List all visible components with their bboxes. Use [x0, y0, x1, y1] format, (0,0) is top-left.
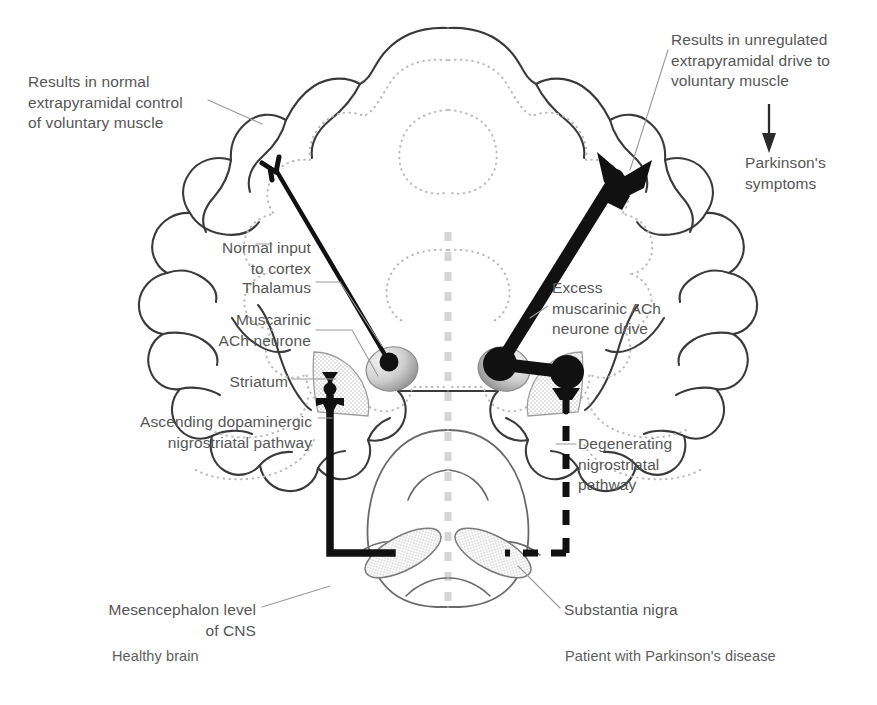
right-sulcus-11 — [506, 418, 528, 440]
left-interneuron-soma — [324, 383, 337, 396]
label-mesencephalon-level: Mesencephalon level of CNS — [100, 600, 256, 641]
label-thalamus: Thalamus — [217, 278, 311, 299]
left-cortical-terminal — [262, 157, 279, 180]
right-ach-soma-thalamic — [483, 347, 517, 381]
right-sulcus-6 — [679, 333, 733, 365]
left-sulcus-3 — [203, 160, 231, 232]
left-sulcus-1 — [312, 84, 360, 158]
label-normal-input-to-cortex: Normal input to cortex — [185, 238, 311, 279]
left-inner-boundary — [244, 60, 447, 412]
label-excess-muscarinic-drive: Excess muscarinic ACh neurone drive — [552, 278, 661, 340]
left-inner-boundary-3 — [386, 250, 447, 322]
label-results-normal-control: Results in normal extrapyramidal control… — [28, 72, 183, 134]
left-inner-boundary-2 — [399, 110, 447, 194]
right-inner-boundary-2 — [449, 110, 497, 194]
caption-parkinsons-patient: Patient with Parkinson's disease — [565, 648, 776, 664]
right-brainstem-inner — [449, 470, 488, 500]
label-degenerating-pathway: Degenerating nigrostriatal pathway — [578, 434, 672, 496]
parkinsons-brain-diagram: Results in normal extrapyramidal control… — [0, 0, 877, 705]
label-muscarinic-ach-neurone: Muscarinic ACh neurone — [190, 310, 311, 351]
left-striatum — [313, 352, 369, 416]
right-brainstem-outline — [449, 430, 528, 607]
left-brainstem-inner — [408, 470, 447, 500]
right-sulcus-3 — [665, 160, 693, 232]
label-striatum: Striatum — [222, 372, 288, 393]
right-sulcus-7 — [676, 388, 716, 395]
left-brainstem-fold-2 — [406, 578, 447, 596]
leader-substantia-nigra — [518, 566, 560, 608]
right-sulcus-1 — [536, 84, 584, 158]
right-inner-boundary-3 — [449, 250, 510, 322]
leader-mesencephalon — [262, 586, 330, 607]
right-inner-boundary — [449, 60, 652, 412]
caption-healthy-brain: Healthy brain — [112, 648, 199, 664]
left-sulcus-11 — [368, 418, 390, 440]
label-substantia-nigra: Substantia nigra — [564, 600, 678, 621]
label-results-unregulated-drive: Results in unregulated extrapyramidal dr… — [671, 30, 830, 92]
left-sulcus-7 — [180, 388, 220, 395]
label-ascending-dopaminergic-pathway: Ascending dopaminergic nigrostriatal pat… — [58, 412, 312, 453]
label-parkinsons-symptoms: Parkinson's symptoms — [745, 153, 826, 194]
right-brainstem-fold-2 — [449, 578, 490, 596]
left-sulcus-9 — [260, 452, 292, 465]
leader-results-normal — [208, 100, 262, 124]
right-sulcus-5 — [680, 271, 729, 302]
left-ach-soma — [380, 353, 399, 372]
left-brainstem-outline — [368, 430, 447, 607]
down-arrow-icon — [762, 104, 776, 153]
leader-results-unregulated — [630, 50, 668, 170]
